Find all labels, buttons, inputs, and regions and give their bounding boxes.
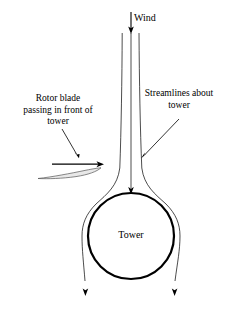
streamline-center [128,33,134,195]
rotor-blade-leader-line [62,129,80,158]
blade-motion-arrow [52,161,104,167]
diagram-canvas [0,0,227,309]
wind-tower-streamline-diagram: Wind Rotor blade passing in front of tow… [0,0,227,309]
streamline-left-arrowhead [83,289,89,297]
streamlines-label: Streamlines about tower [136,88,222,111]
streamline-right-arrowhead [172,289,178,297]
wind-direction-arrow [128,12,134,34]
wind-label: Wind [134,12,156,24]
streamlines-leader-line [141,119,179,159]
rotor-blade-label: Rotor blade passing in front of tower [8,93,108,128]
rotor-blade-airfoil [38,168,101,179]
tower-label: Tower [101,229,161,241]
